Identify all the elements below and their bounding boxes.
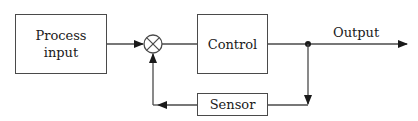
sensor-block: Sensor [197, 93, 268, 116]
output-label: Output [333, 25, 379, 40]
summing-junction-icon [144, 35, 162, 53]
control-label: Control [208, 36, 258, 53]
process-input-block: Process input [15, 14, 107, 74]
control-block: Control [197, 14, 268, 74]
process-input-label-line2: input [44, 44, 78, 61]
control-loop-diagram: Process input Control Sensor Output [0, 0, 418, 121]
process-input-label-line1: Process [35, 27, 86, 44]
sensor-label: Sensor [210, 96, 256, 113]
